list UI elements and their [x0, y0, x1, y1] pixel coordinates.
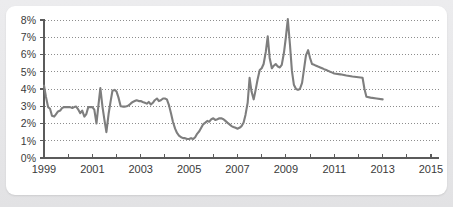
- y-axis-tick-label: 5%: [21, 66, 36, 78]
- y-axis-tick-label: 2%: [21, 117, 36, 129]
- x-axis-labels-group: 199920012003200520072009201120132015: [32, 163, 443, 175]
- x-axis-tick-label: 2001: [80, 163, 104, 175]
- x-axis-tick-label: 1999: [32, 163, 56, 175]
- x-axis-tick-label: 2007: [225, 163, 249, 175]
- x-tick-marks-group: [44, 154, 431, 158]
- y-axis-tick-label: 8%: [21, 14, 36, 26]
- x-axis-tick-label: 2009: [274, 163, 298, 175]
- y-axis-tick-label: 1%: [21, 135, 36, 147]
- chart-card: 8%7%6%5%4%3%2%1%0% 199920012003200520072…: [6, 6, 447, 195]
- x-axis-tick-label: 2015: [419, 163, 443, 175]
- y-axis-tick-label: 0%: [21, 152, 36, 164]
- x-axis-tick-label: 2003: [129, 163, 153, 175]
- x-axis-tick-label: 2011: [322, 163, 346, 175]
- x-axis-tick-label: 2013: [370, 163, 394, 175]
- y-axis-tick-label: 7%: [21, 31, 36, 43]
- chart-screen: 8%7%6%5%4%3%2%1%0% 199920012003200520072…: [0, 0, 453, 207]
- y-axis-tick-label: 6%: [21, 48, 36, 60]
- plot-area: 8%7%6%5%4%3%2%1%0% 199920012003200520072…: [6, 6, 447, 195]
- line-chart: 8%7%6%5%4%3%2%1%0% 199920012003200520072…: [6, 6, 447, 195]
- x-axis-tick-label: 2005: [177, 163, 201, 175]
- y-axis-tick-label: 4%: [21, 83, 36, 95]
- y-axis-tick-label: 3%: [21, 100, 36, 112]
- y-axis-labels-group: 8%7%6%5%4%3%2%1%0%: [21, 14, 36, 164]
